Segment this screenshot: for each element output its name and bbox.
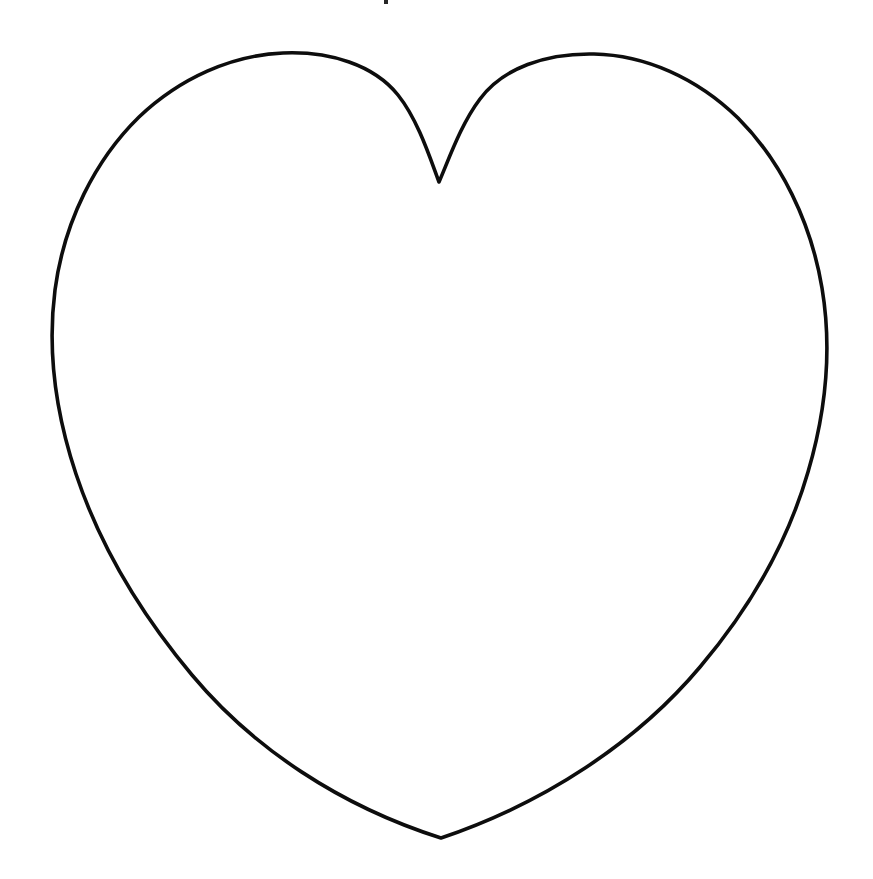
- drawing-canvas: Heart Outline Template Plain black outli…: [0, 0, 873, 879]
- canvas-background: [0, 0, 873, 879]
- cropped-mark-icon: [384, 0, 388, 4]
- heart-icon: [0, 0, 873, 879]
